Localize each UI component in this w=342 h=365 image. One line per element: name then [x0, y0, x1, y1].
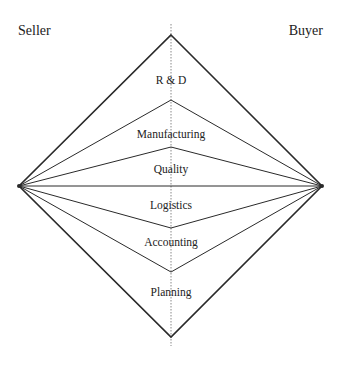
buyer-label: Buyer: [289, 23, 324, 38]
function-label-logistics: Logistics: [150, 199, 193, 212]
function-label-manufacturing: Manufacturing: [137, 128, 206, 141]
buyer-vertex: [320, 184, 324, 188]
function-label-rd: R & D: [156, 74, 187, 86]
seller-buyer-diamond-diagram: Seller Buyer R & D Manufacturing Quality…: [0, 0, 342, 365]
function-label-quality: Quality: [154, 163, 189, 176]
seller-label: Seller: [18, 23, 51, 38]
function-label-planning: Planning: [151, 286, 192, 299]
seller-vertex: [17, 184, 21, 188]
function-label-accounting: Accounting: [144, 236, 198, 249]
